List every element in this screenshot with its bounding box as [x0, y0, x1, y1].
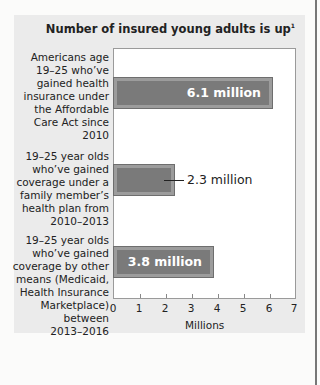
- x-tick-label: 1: [133, 302, 145, 314]
- category-label-3: 19–25 year oldswho’ve gainedcoverage by …: [9, 234, 109, 338]
- x-tick-label: 5: [237, 302, 249, 314]
- x-tick-label: 0: [107, 302, 119, 314]
- x-tick: [244, 294, 245, 298]
- x-axis-label: Millions: [185, 319, 224, 331]
- category-label-2: 19–25 year oldswho’ve gainedcoverage und…: [9, 150, 109, 228]
- bar-3: 3.8 million: [114, 247, 213, 277]
- x-tick-label: 6: [263, 302, 275, 314]
- x-tick-label: 2: [159, 302, 171, 314]
- chart-panel: Number of insured young adults is up1 Am…: [14, 15, 305, 333]
- page-border-rule: [315, 0, 317, 385]
- x-tick-label: 3: [185, 302, 197, 314]
- chart-title: Number of insured young adults is up1: [14, 22, 305, 36]
- bar-2-value: 2.3 million: [187, 172, 253, 187]
- x-tick: [218, 294, 219, 298]
- bar-1: 6.1 million: [114, 78, 272, 108]
- x-tick-label: 4: [211, 302, 223, 314]
- plot-area: 6.1 million 2.3 million 3.8 million: [113, 48, 296, 299]
- bar-1-value: 6.1 million: [187, 81, 261, 105]
- category-label-1: Americans age19–25 who’vegained healthin…: [9, 51, 109, 142]
- x-tick: [140, 294, 141, 298]
- x-tick: [270, 294, 271, 298]
- x-tick-label: 7: [288, 302, 300, 314]
- footnote-marker: 1: [291, 22, 295, 29]
- x-tick: [192, 294, 193, 298]
- bar-2-leader-line: [164, 180, 184, 181]
- bar-3-value: 3.8 million: [128, 250, 202, 274]
- chart-title-text: Number of insured young adults is up: [46, 22, 291, 36]
- x-tick: [166, 294, 167, 298]
